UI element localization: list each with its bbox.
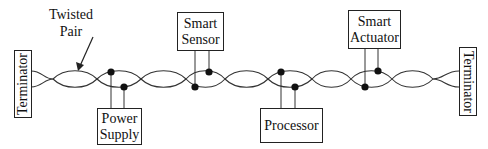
twisted-pair-arrow [76,37,93,71]
terminator-left-label: Terminator [16,53,30,115]
power-supply-label-line2: Supply [100,127,140,143]
terminator-right-label: Terminator [461,51,475,113]
smart-sensor-label-line2: Sensor [181,32,219,48]
terminator-right: Terminator [459,47,477,116]
smart-sensor-label-line1: Smart [184,16,217,32]
smart-actuator-label-line2: Actuator [350,30,399,46]
node-drop-lines [111,49,378,108]
processor-label: Processor [264,118,318,134]
twisted-pair-label-line1: Twisted [42,6,100,23]
smart-actuator-label-line1: Smart [358,14,391,30]
node-processor: Processor [260,108,323,143]
power-supply-label-line1: Power [102,111,138,127]
terminator-left: Terminator [14,50,32,118]
twisted-pair-label-line2: Pair [42,23,100,40]
node-smart-sensor: Smart Sensor [177,12,224,51]
node-power-supply: Power Supply [97,108,142,145]
twisted-pair-label: Twisted Pair [42,6,100,40]
twisted-pair-wires [31,71,459,88]
node-smart-actuator: Smart Actuator [348,10,401,49]
